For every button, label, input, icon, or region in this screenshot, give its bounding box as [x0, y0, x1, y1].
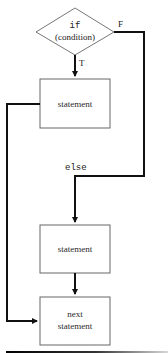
decision-diamond: if (condition) — [36, 8, 114, 55]
else-label: else — [65, 163, 87, 173]
decision-keyword: if — [70, 21, 81, 31]
true-label: T — [79, 58, 85, 68]
next-statement-line1: next — [67, 309, 83, 319]
statement-box-else: statement — [40, 225, 110, 273]
decision-condition: (condition) — [55, 32, 95, 42]
false-label: F — [118, 19, 123, 29]
statement-else-label: statement — [58, 244, 93, 254]
flowchart-canvas: if (condition) F T statement else statem… — [0, 0, 168, 353]
true-to-next-connector — [7, 104, 40, 321]
next-statement-line2: statement — [58, 321, 93, 331]
statement-true-label: statement — [58, 99, 93, 109]
next-statement-box: next statement — [40, 297, 110, 345]
statement-box-true: statement — [40, 79, 110, 128]
